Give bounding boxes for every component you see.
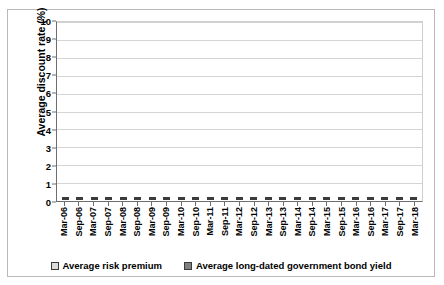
x-axis-tick-slot [276, 202, 291, 206]
x-axis-label-slot: Sep-17 [393, 207, 408, 253]
bar-segment-risk-premium[interactable] [381, 198, 388, 200]
stacked-bar[interactable] [207, 197, 214, 200]
x-axis-tick-mark [210, 202, 211, 206]
bar-segment-risk-premium[interactable] [134, 198, 141, 200]
stacked-bar[interactable] [367, 197, 374, 200]
bar-slot [58, 23, 73, 200]
x-axis-tick-mark [254, 202, 255, 206]
x-axis-tick-slot [363, 202, 378, 206]
y-axis-tick-label: 0 [46, 197, 51, 208]
bar-segment-risk-premium[interactable] [338, 198, 345, 200]
stacked-bar[interactable] [294, 197, 301, 200]
x-axis-tick-slot [247, 202, 262, 206]
bar-segment-risk-premium[interactable] [323, 198, 330, 200]
x-axis-tick-mark [166, 202, 167, 206]
x-axis-tick-slot [232, 202, 247, 206]
bar-segment-risk-premium[interactable] [352, 198, 359, 200]
stacked-bar[interactable] [192, 197, 199, 200]
y-axis-tick-label: 9 [46, 34, 51, 45]
x-axis-tick-label: Mar-18 [410, 207, 419, 236]
y-axis-tick-label: 10 [40, 16, 51, 27]
y-axis-tick-mark [52, 57, 56, 58]
bar-segment-risk-premium[interactable] [105, 198, 112, 200]
stacked-bar[interactable] [178, 197, 185, 200]
y-axis-tick-label: 1 [46, 178, 51, 189]
legend-label: Average long-dated government bond yield [196, 260, 391, 271]
stacked-bar[interactable] [250, 197, 257, 200]
bar-segment-risk-premium[interactable] [294, 198, 301, 200]
bar-segment-risk-premium[interactable] [221, 198, 228, 200]
y-axis-tick-label: 3 [46, 142, 51, 153]
stacked-bar[interactable] [120, 197, 127, 200]
x-axis-tick-label: Mar-16 [352, 207, 361, 236]
bar-segment-risk-premium[interactable] [120, 198, 127, 200]
x-axis-tick-mark [224, 202, 225, 206]
stacked-bar[interactable] [76, 197, 83, 200]
stacked-bar[interactable] [91, 197, 98, 200]
bar-slot [247, 23, 262, 200]
x-axis-label-slot: Mar-18 [407, 207, 422, 253]
x-axis-tick-mark [195, 202, 196, 206]
x-axis-tick-label: Sep-16 [366, 207, 375, 237]
bar-segment-risk-premium[interactable] [396, 198, 403, 200]
x-axis-tick-label: Mar-12 [235, 207, 244, 236]
x-axis-tick-mark [356, 202, 357, 206]
x-axis-tick-label: Sep-10 [191, 207, 200, 237]
bar-segment-risk-premium[interactable] [367, 198, 374, 200]
bar-segment-risk-premium[interactable] [163, 198, 170, 200]
bar-slot [145, 23, 160, 200]
bar-slot [174, 23, 189, 200]
stacked-bar[interactable] [352, 197, 359, 200]
x-axis-tick-mark [137, 202, 138, 206]
stacked-bar[interactable] [149, 197, 156, 200]
x-axis-label-slot: Mar-17 [378, 207, 393, 253]
stacked-bar[interactable] [410, 197, 417, 200]
bar-segment-risk-premium[interactable] [62, 198, 69, 200]
x-axis-tick-label: Sep-06 [74, 207, 83, 237]
legend-item[interactable]: Average long-dated government bond yield [184, 260, 391, 271]
stacked-bar[interactable] [236, 197, 243, 200]
x-axis-label-slot: Mar-06 [57, 207, 72, 253]
bar-segment-risk-premium[interactable] [91, 198, 98, 200]
stacked-bar[interactable] [105, 197, 112, 200]
x-axis-tick-mark [312, 202, 313, 206]
bar-segment-risk-premium[interactable] [309, 198, 316, 200]
bar-segment-risk-premium[interactable] [207, 198, 214, 200]
stacked-bar[interactable] [62, 197, 69, 200]
stacked-bar[interactable] [309, 197, 316, 200]
bar-segment-risk-premium[interactable] [149, 198, 156, 200]
bar-segment-risk-premium[interactable] [250, 198, 257, 200]
stacked-bar[interactable] [323, 197, 330, 200]
x-axis-tick-slot [86, 202, 101, 206]
stacked-bar[interactable] [338, 197, 345, 200]
legend-swatch-icon [51, 262, 59, 270]
x-axis-tick-label: Sep-13 [279, 207, 288, 237]
stacked-bar[interactable] [134, 197, 141, 200]
y-axis-tick-mark [52, 129, 56, 130]
x-axis-label-slot: Sep-12 [247, 207, 262, 253]
bar-slot [276, 23, 291, 200]
bar-segment-risk-premium[interactable] [192, 198, 199, 200]
bar-segment-risk-premium[interactable] [236, 198, 243, 200]
bar-segment-risk-premium[interactable] [279, 198, 286, 200]
stacked-bar[interactable] [221, 197, 228, 200]
x-axis-label-slot: Mar-10 [174, 207, 189, 253]
x-axis-tick-mark [122, 202, 123, 206]
stacked-bar[interactable] [381, 197, 388, 200]
stacked-bar[interactable] [279, 197, 286, 200]
x-axis-label-slot: Sep-06 [72, 207, 87, 253]
y-axis-tick-mark [52, 111, 56, 112]
bar-segment-risk-premium[interactable] [76, 198, 83, 200]
stacked-bar[interactable] [396, 197, 403, 200]
stacked-bar[interactable] [265, 197, 272, 200]
x-axis-label-slot: Mar-07 [86, 207, 101, 253]
bar-segment-risk-premium[interactable] [410, 198, 417, 200]
x-axis-tick-label: Sep-11 [220, 207, 229, 236]
x-axis-tick-slot [174, 202, 189, 206]
x-axis-tick-label: Sep-15 [337, 207, 346, 237]
legend-item[interactable]: Average risk premium [51, 260, 162, 271]
x-axis-tick-label: Mar-11 [206, 207, 215, 236]
bar-segment-risk-premium[interactable] [178, 198, 185, 200]
bar-segment-risk-premium[interactable] [265, 198, 272, 200]
stacked-bar[interactable] [163, 197, 170, 200]
